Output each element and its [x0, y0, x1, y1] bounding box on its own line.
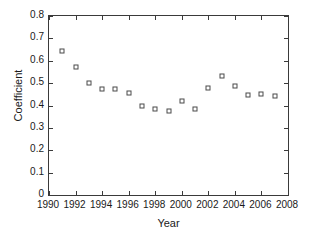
y-axis-tick — [49, 173, 53, 174]
x-axis-tick-top — [182, 16, 183, 20]
y-axis-tick-label: 0.2 — [30, 144, 44, 154]
data-point — [246, 92, 251, 97]
y-axis-tick-label: 0.5 — [30, 77, 44, 87]
y-axis-tick-label: 0.3 — [30, 122, 44, 132]
y-axis-tick — [49, 61, 53, 62]
x-axis-tick-label: 1994 — [90, 200, 112, 210]
y-axis-tick-label: 0.4 — [30, 100, 44, 110]
x-axis-tick-top — [235, 16, 236, 20]
x-axis-tick-top — [261, 16, 262, 20]
x-axis-tick-label: 2008 — [276, 200, 298, 210]
y-axis-tick-right — [284, 173, 288, 174]
data-point — [219, 73, 224, 78]
x-axis-tick — [155, 191, 156, 195]
data-point — [126, 90, 131, 95]
y-axis-tick-right — [284, 150, 288, 151]
x-axis-tick-label: 2002 — [196, 200, 218, 210]
x-axis-tick-label: 1998 — [143, 200, 165, 210]
x-axis-tick — [76, 191, 77, 195]
y-axis-tick — [49, 150, 53, 151]
x-axis-tick-label: 1990 — [37, 200, 59, 210]
data-point — [60, 48, 65, 53]
x-axis-tick — [49, 191, 50, 195]
x-axis-tick-top — [288, 16, 289, 20]
x-axis-tick-label: 1992 — [63, 200, 85, 210]
data-point — [73, 64, 78, 69]
x-axis-tick — [235, 191, 236, 195]
y-axis-tick-label: 0.1 — [30, 167, 44, 177]
data-point — [139, 104, 144, 109]
y-axis-tick-label: 0.6 — [30, 55, 44, 65]
data-point — [179, 99, 184, 104]
y-axis-tick-right — [284, 61, 288, 62]
y-axis-title: Coefficient — [13, 51, 24, 141]
y-axis-tick-label: 0.8 — [30, 10, 44, 20]
data-point — [193, 106, 198, 111]
x-axis-tick-label: 2000 — [170, 200, 192, 210]
x-axis-tick-labels: 1990199219941996199820002002200420062008 — [48, 200, 289, 214]
x-axis-tick — [102, 191, 103, 195]
y-axis-tick — [49, 83, 53, 84]
y-axis-tick — [49, 106, 53, 107]
y-axis-tick-right — [284, 83, 288, 84]
y-axis-tick-label: 0 — [38, 189, 44, 199]
x-axis-tick-top — [208, 16, 209, 20]
data-point — [100, 87, 105, 92]
data-point — [232, 83, 237, 88]
data-point — [86, 81, 91, 86]
chart-figure: 00.10.20.30.40.50.60.70.8 19901992199419… — [0, 0, 312, 241]
data-point — [166, 109, 171, 114]
y-axis-tick-right — [284, 195, 288, 196]
y-axis-tick — [49, 195, 53, 196]
x-axis-tick-top — [102, 16, 103, 20]
x-axis-tick — [288, 191, 289, 195]
x-axis-tick — [129, 191, 130, 195]
y-axis-tick-right — [284, 106, 288, 107]
x-axis-title: Year — [48, 218, 289, 229]
y-axis-tick-label: 0.7 — [30, 32, 44, 42]
x-axis-tick — [208, 191, 209, 195]
data-point — [113, 87, 118, 92]
x-axis-tick-top — [49, 16, 50, 20]
data-point — [206, 86, 211, 91]
x-axis-tick-label: 2006 — [249, 200, 271, 210]
x-axis-tick-label: 2004 — [223, 200, 245, 210]
x-axis-tick-top — [155, 16, 156, 20]
y-axis-tick-right — [284, 38, 288, 39]
y-axis-tick — [49, 38, 53, 39]
data-point — [272, 94, 277, 99]
data-point — [153, 106, 158, 111]
plot-area — [48, 15, 289, 196]
x-axis-tick-top — [129, 16, 130, 20]
x-axis-tick-label: 1996 — [117, 200, 139, 210]
data-point — [259, 92, 264, 97]
x-axis-tick — [261, 191, 262, 195]
y-axis-tick — [49, 128, 53, 129]
x-axis-tick — [182, 191, 183, 195]
x-axis-tick-top — [76, 16, 77, 20]
y-axis-tick-right — [284, 128, 288, 129]
